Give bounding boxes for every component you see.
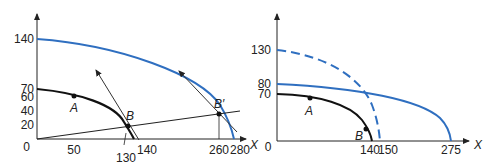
label-a: A <box>69 101 78 115</box>
y-tick-130: 130 <box>251 43 271 57</box>
y-tick-60: 60 <box>21 90 35 104</box>
x-tick-140: 140 <box>137 143 157 157</box>
x-tick-280: 280 <box>230 143 250 157</box>
label-b-prime: B′ <box>214 97 225 111</box>
x-tick-50: 50 <box>67 143 81 157</box>
left-black-ppf <box>37 89 134 139</box>
label-b: B <box>355 129 363 143</box>
x-tick-130: 130 <box>116 151 136 165</box>
x-tick-150: 150 <box>378 143 398 157</box>
x-tick-260: 260 <box>209 143 229 157</box>
label-b: B <box>126 109 134 123</box>
x-axis-label: X <box>249 138 259 152</box>
point-a <box>72 94 77 99</box>
right-solid-ppf <box>277 84 451 141</box>
right-panel: A B 130 80 70 0 140 150 275 X <box>251 14 483 157</box>
label-a: A <box>304 104 313 118</box>
left-panel: A B B′ 140 70 60 40 20 0 50 130 140 260 … <box>14 14 259 165</box>
y-tick-70: 70 <box>258 87 272 101</box>
left-blue-ppf <box>37 39 234 139</box>
y-tick-20: 20 <box>21 118 35 132</box>
point-b <box>364 127 369 132</box>
y-tick-40: 40 <box>21 104 35 118</box>
origin-0: 0 <box>23 140 30 154</box>
point-a <box>308 96 313 101</box>
origin-0: 0 <box>265 140 272 154</box>
point-b <box>126 124 131 129</box>
ppf-diagram: A B B′ 140 70 60 40 20 0 50 130 140 260 … <box>0 0 498 168</box>
y-tick-140: 140 <box>14 32 34 46</box>
x-axis-label: X <box>473 138 483 152</box>
x-tick-275: 275 <box>441 143 461 157</box>
point-b-prime <box>217 112 222 117</box>
tangent-at-b-prime <box>179 71 237 132</box>
ray-from-origin <box>37 111 240 139</box>
